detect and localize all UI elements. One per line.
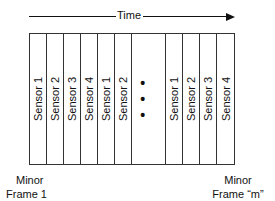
caption-minor-frame-m: Minor Frame “m” [208,173,268,201]
slot-label: Sensor 2 [117,77,129,121]
ellipsis-icon: • • • [140,75,157,123]
caption-minor-frame-1: Minor Frame 1 [6,173,52,201]
slot-label: Sensor 4 [83,77,95,121]
frame-slot: Sensor 4 [217,34,234,164]
slot-label: Sensor 2 [185,77,197,121]
frame-slot: Sensor 1 [98,34,115,164]
time-axis-label: Time [116,9,142,22]
time-axis-line-right [143,16,227,17]
caption-line: Minor [208,173,268,187]
frame-slot: Sensor 2 [115,34,132,164]
slot-label: Sensor 3 [66,77,78,121]
slot-label: Sensor 1 [32,77,44,121]
frame-slot: Sensor 4 [81,34,98,164]
ellipsis-slot: • • • [132,34,166,164]
frame-slot: Sensor 1 [30,34,47,164]
slot-label: Sensor 4 [220,77,232,121]
frame-slot: Sensor 2 [47,34,64,164]
frame-slot: Sensor 2 [183,34,200,164]
caption-line: Minor [6,173,52,187]
slot-label: Sensor 2 [49,77,61,121]
caption-line: Frame 1 [6,187,52,201]
frame-slot: Sensor 3 [200,34,217,164]
slot-label: Sensor 3 [202,77,214,121]
slot-label: Sensor 1 [100,77,112,121]
major-frame: Sensor 1 Sensor 2 Sensor 3 Sensor 4 Sens… [29,33,235,165]
arrow-right-icon [226,13,235,21]
time-axis-line-left [29,16,117,17]
caption-line: Frame “m” [208,187,268,201]
slot-label: Sensor 1 [168,77,180,121]
frame-slot: Sensor 1 [166,34,183,164]
frame-slot: Sensor 3 [64,34,81,164]
